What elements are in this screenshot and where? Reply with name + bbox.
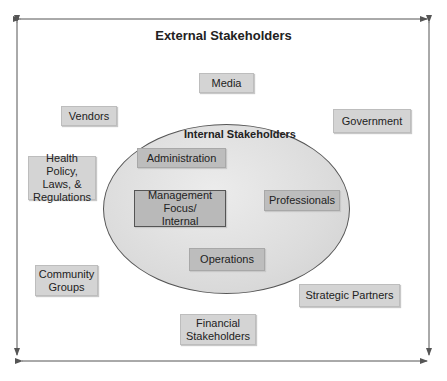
external-stakeholders-title: External Stakeholders (0, 28, 447, 43)
box-community-groups: Community Groups (35, 265, 98, 296)
box-professionals: Professionals (264, 190, 340, 211)
internal-stakeholders-title: Internal Stakeholders (150, 128, 330, 140)
box-vendors: Vendors (61, 106, 117, 126)
box-strategic-partners: Strategic Partners (299, 284, 400, 307)
box-administration: Administration (137, 148, 226, 168)
box-management-focus: Management Focus/ Internal (134, 190, 226, 227)
box-financial-stakeholders: Financial Stakeholders (180, 314, 256, 345)
box-health-policy: Health Policy, Laws, & Regulations (28, 156, 96, 200)
box-government: Government (333, 109, 411, 133)
box-media: Media (199, 73, 254, 93)
box-operations: Operations (189, 248, 265, 271)
